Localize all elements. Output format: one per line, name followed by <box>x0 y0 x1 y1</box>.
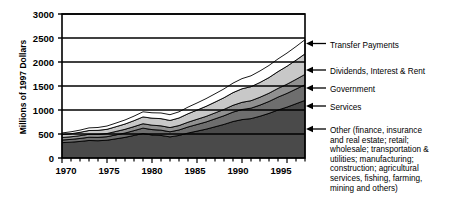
callout-arrow-other <box>306 126 313 132</box>
legend-label-dividends-interest-rent: Dividends, Interest & Rent <box>330 67 425 77</box>
callout-arrow-transfer-payments <box>306 40 313 46</box>
chart-root: Millions of 1997 Dollars 3000 2500 2000 … <box>0 0 458 217</box>
legend-label-government: Government <box>330 85 375 95</box>
legend-label-transfer-payments: Transfer Payments <box>330 41 399 51</box>
callout-arrow-dividends-interest-rent <box>306 67 313 73</box>
legend-label-services: Services <box>330 103 361 113</box>
area-series-group <box>62 40 305 158</box>
legend-callout-lines <box>306 40 326 132</box>
callout-arrow-services <box>306 103 313 109</box>
legend-label-other: Other (finance, insurance and real estat… <box>330 126 429 193</box>
callout-arrow-government <box>306 85 313 91</box>
